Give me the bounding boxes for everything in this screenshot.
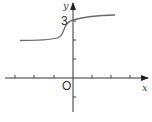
y-axis-label: y (62, 0, 69, 11)
y-intercept-label: 3 (61, 14, 68, 28)
x-axis-label: x (142, 82, 148, 93)
function-graph: y x 3 O (0, 0, 152, 122)
origin-label: O (62, 79, 71, 93)
